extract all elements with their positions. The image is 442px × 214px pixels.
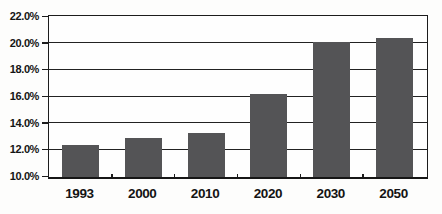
x-axis-boundary-tick: [362, 174, 364, 177]
x-axis-label-2010: 2010: [173, 186, 237, 201]
y-axis-label: 12.0%: [0, 143, 39, 155]
y-tick-22.0%: [42, 16, 48, 18]
gridline-12.0%: [49, 149, 427, 150]
bar-2000: [125, 138, 162, 177]
gridline-14.0%: [49, 122, 427, 123]
gridline-20.0%: [49, 42, 427, 43]
x-axis-label-2030: 2030: [299, 186, 363, 201]
x-axis-boundary-tick: [111, 174, 113, 177]
y-axis-label: 20.0%: [0, 37, 39, 49]
y-tick-14.0%: [42, 122, 48, 124]
bar-1993: [62, 145, 99, 177]
bar-2020: [250, 94, 287, 177]
plot-area: [48, 15, 428, 179]
y-tick-12.0%: [42, 149, 48, 151]
y-axis-label: 18.0%: [0, 63, 39, 75]
bar-2010: [188, 133, 225, 177]
x-axis-boundary-tick: [174, 174, 176, 177]
y-tick-18.0%: [42, 69, 48, 71]
x-axis-label-2020: 2020: [236, 186, 300, 201]
gridline-18.0%: [49, 69, 427, 70]
y-tick-10.0%: [42, 176, 48, 178]
x-axis-label-2000: 2000: [110, 186, 174, 201]
y-axis-label: 16.0%: [0, 90, 39, 102]
x-axis-boundary-tick: [237, 174, 239, 177]
bar-2030: [313, 42, 350, 177]
y-axis-label: 10.0%: [0, 170, 39, 182]
percentage-by-year-bar-chart: 10.0%12.0%14.0%16.0%18.0%20.0%22.0%19932…: [0, 0, 442, 214]
y-tick-16.0%: [42, 96, 48, 98]
x-axis-label-2050: 2050: [362, 186, 426, 201]
y-tick-20.0%: [42, 42, 48, 44]
gridline-16.0%: [49, 96, 427, 97]
bar-2050: [376, 38, 413, 177]
x-axis-boundary-tick: [300, 174, 302, 177]
y-axis-label: 14.0%: [0, 117, 39, 129]
x-axis-label-1993: 1993: [47, 186, 111, 201]
y-axis-label: 22.0%: [0, 10, 39, 22]
